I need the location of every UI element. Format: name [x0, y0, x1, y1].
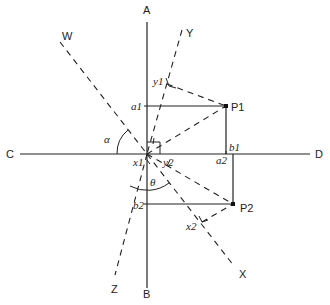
label-x2: x2	[185, 220, 197, 232]
label-Y: Y	[186, 27, 194, 39]
label-W: W	[62, 30, 73, 42]
origin-to-p1	[147, 106, 226, 154]
p1-to-y1	[167, 84, 226, 106]
label-P2: P2	[240, 202, 253, 214]
label-y2: y2	[162, 156, 174, 168]
right-angle-y1	[166, 78, 176, 88]
label-theta: θ	[150, 176, 156, 188]
label-a2: a2	[216, 154, 228, 166]
label-alpha: α	[104, 133, 110, 145]
point-p1-marker	[224, 104, 228, 108]
label-D: D	[315, 148, 323, 160]
label-B: B	[143, 288, 150, 300]
point-p2-marker	[231, 202, 235, 206]
coordinate-rotation-diagram: A B C D W X Y Z P1 P2 a1 b1 a2 b2 x1 y1 …	[0, 0, 330, 305]
label-b2: b2	[133, 199, 145, 211]
label-a1: a1	[131, 100, 142, 112]
alpha-arc	[117, 130, 128, 154]
label-Z: Z	[111, 283, 118, 295]
label-x1: x1	[132, 156, 143, 168]
diagram-canvas: A B C D W X Y Z P1 P2 a1 b1 a2 b2 x1 y1 …	[0, 0, 330, 305]
tick-origin	[153, 138, 154, 144]
label-X: X	[239, 268, 247, 280]
axis-Z	[115, 154, 147, 275]
label-y1: y1	[152, 75, 163, 87]
axis-X	[147, 154, 234, 266]
label-P1: P1	[231, 101, 244, 113]
label-A: A	[143, 4, 151, 16]
label-b1: b1	[229, 141, 240, 153]
label-C: C	[6, 148, 14, 160]
p2-to-x2	[202, 204, 233, 222]
